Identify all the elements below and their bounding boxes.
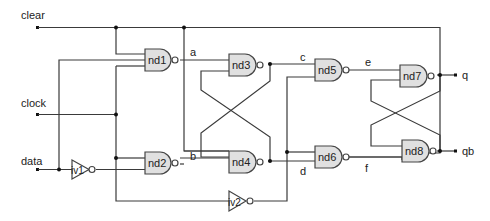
gate-label-nd7: nd7: [403, 70, 421, 82]
gate-label-nd5: nd5: [318, 64, 336, 76]
gate-nd4: nd4: [229, 151, 263, 173]
junction-dot: [57, 168, 61, 172]
gate-label-nd8: nd8: [405, 145, 423, 157]
output-label-qb: qb: [462, 145, 474, 157]
gate-label-nd3: nd3: [232, 59, 250, 71]
gate-nd5: nd5: [315, 59, 349, 81]
input-label-clear: clear: [21, 9, 45, 21]
gate-nd1: nd1: [145, 49, 178, 71]
output-label-q: q: [462, 69, 468, 81]
gate-label-nd4: nd4: [232, 156, 250, 168]
net-iv2-out: [254, 77, 315, 201]
net-label-d: d: [300, 165, 306, 177]
junction-dot: [114, 156, 118, 160]
junction-dot: [268, 62, 272, 66]
input-label-data: data: [21, 155, 43, 167]
gate-nd8: nd8: [402, 140, 436, 162]
gate-nd3: nd3: [229, 54, 263, 76]
cross-coupling-nd3-nd4: [201, 64, 270, 161]
junction-dot: [114, 26, 118, 30]
gate-nd7: nd7: [400, 65, 434, 87]
gate-label-nd2: nd2: [148, 157, 166, 169]
q-terminal: [454, 74, 457, 77]
junction-dot: [285, 150, 289, 154]
net-label-c: c: [300, 51, 306, 63]
net-label-a: a: [190, 46, 197, 58]
gate-nd6: nd6: [315, 146, 349, 168]
qb-terminal: [454, 150, 457, 153]
input-label-clock: clock: [21, 97, 47, 109]
net-label-e: e: [365, 56, 371, 68]
logic-circuit-diagram: clear clock data a b c: [0, 0, 490, 221]
inverter-iv1: iv1: [71, 160, 95, 179]
gate-label-nd6: nd6: [318, 151, 336, 163]
net-label-f: f: [365, 162, 369, 174]
net-label-b: b: [190, 150, 196, 162]
junction-dot: [268, 159, 272, 163]
gate-label-nd1: nd1: [148, 54, 166, 66]
net-clock: [38, 66, 231, 201]
net-clear: [38, 28, 440, 154]
gate-label-iv1: iv1: [71, 165, 84, 176]
junction-dot: [438, 149, 442, 153]
gate-nd2: nd2: [145, 152, 178, 174]
junction-dot: [114, 113, 118, 117]
junction-dot: [438, 73, 442, 77]
gate-label-iv2: iv2: [228, 197, 241, 208]
junction-dot: [182, 26, 186, 30]
inverter-iv2: iv2: [228, 191, 253, 211]
